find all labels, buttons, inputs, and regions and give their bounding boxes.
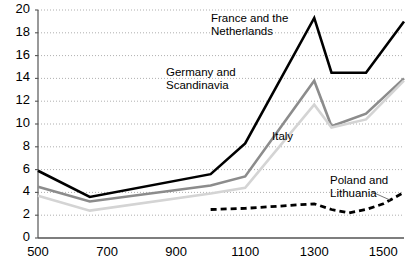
italy-label: Italy bbox=[272, 130, 293, 143]
y-tick-label: 8 bbox=[2, 138, 30, 153]
x-tick-label: 1100 bbox=[215, 244, 275, 259]
chart-plot-area bbox=[0, 0, 411, 269]
germany-scandinavia-label: Germany and Scandinavia bbox=[166, 66, 236, 92]
line-chart: 20181614121086420 500700900110013001500 … bbox=[0, 0, 411, 269]
x-tick-label: 1300 bbox=[284, 244, 344, 259]
x-tick-label: 500 bbox=[8, 244, 68, 259]
x-tick-label: 900 bbox=[146, 244, 206, 259]
x-tick-label: 700 bbox=[77, 244, 137, 259]
france-netherlands-label: France and the Netherlands bbox=[211, 12, 288, 38]
y-tick-label: 0 bbox=[2, 229, 30, 244]
y-tick-label: 12 bbox=[2, 92, 30, 107]
y-tick-label: 14 bbox=[2, 69, 30, 84]
poland-lithuania-label: Poland and Lithuania bbox=[330, 174, 388, 200]
y-tick-label: 18 bbox=[2, 24, 30, 39]
y-tick-label: 10 bbox=[2, 115, 30, 130]
series-line-france-and-the-netherlands bbox=[38, 18, 404, 197]
y-tick-label: 20 bbox=[2, 1, 30, 16]
y-tick-label: 2 bbox=[2, 206, 30, 221]
y-tick-label: 4 bbox=[2, 183, 30, 198]
y-tick-label: 6 bbox=[2, 161, 30, 176]
x-tick-label: 1500 bbox=[353, 244, 411, 259]
y-tick-label: 16 bbox=[2, 47, 30, 62]
